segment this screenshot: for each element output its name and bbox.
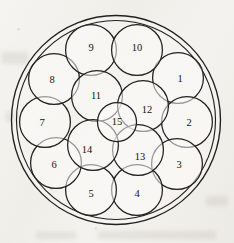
circle-label-12: 12 [142, 104, 153, 115]
circle-label-6: 6 [51, 159, 56, 170]
circle-packing-figure: 123456789101112131415 [0, 0, 234, 243]
packed-circle-7 [20, 97, 71, 148]
circle-label-15: 15 [112, 116, 123, 127]
circle-label-5: 5 [88, 188, 93, 199]
circle-label-3: 3 [176, 159, 181, 170]
circle-label-2: 2 [186, 117, 191, 128]
circle-label-7: 7 [39, 117, 44, 128]
circle-label-4: 4 [134, 188, 140, 199]
circle-label-14: 14 [82, 144, 93, 155]
circle-label-10: 10 [132, 42, 143, 53]
circle-packing-diagram: 123456789101112131415 [0, 0, 234, 243]
circle-label-8: 8 [49, 74, 54, 85]
circle-label-13: 13 [135, 151, 146, 162]
circle-label-11: 11 [91, 90, 101, 101]
circle-label-9: 9 [88, 42, 93, 53]
circle-label-1: 1 [177, 73, 182, 84]
